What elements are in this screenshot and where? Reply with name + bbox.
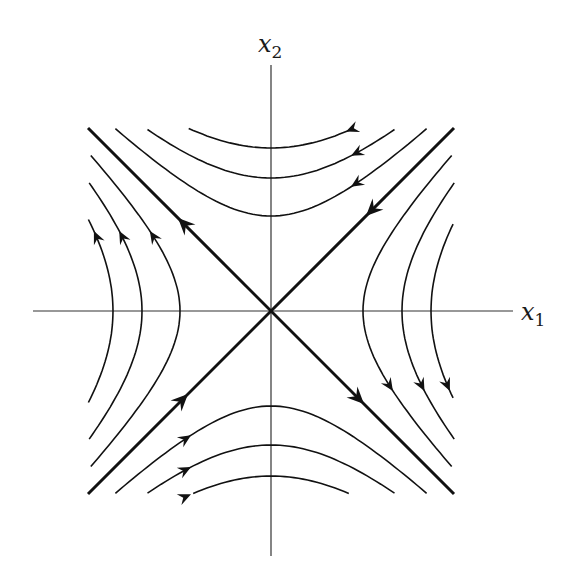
trajectory-arrow-icon — [439, 377, 455, 394]
x1-axis-label: x1 — [521, 298, 545, 330]
trajectory-arrow-icon — [413, 377, 429, 394]
trajectory-arrow-icon — [177, 430, 194, 447]
trajectory-arrow-icon — [89, 229, 105, 246]
phase-portrait: x1 x2 — [0, 0, 579, 587]
trajectory-arrow-icon — [114, 228, 130, 245]
trajectory-arrow-icon — [177, 489, 194, 505]
trajectory-arrow-icon — [145, 228, 162, 245]
x2-axis-label: x2 — [258, 30, 282, 62]
trajectory-arrow-icon — [348, 175, 365, 192]
trajectory-arrow-icon — [177, 462, 194, 478]
trajectory-arrow-icon — [344, 121, 361, 137]
trajectory-arrow-icon — [348, 145, 365, 161]
trajectory-arrow-icon — [381, 377, 398, 394]
